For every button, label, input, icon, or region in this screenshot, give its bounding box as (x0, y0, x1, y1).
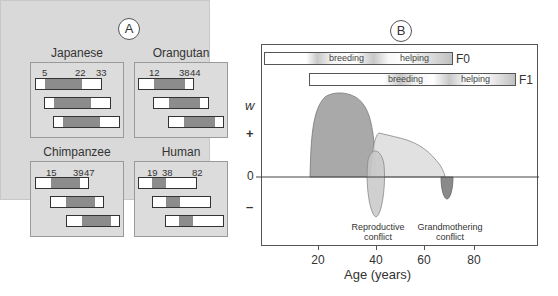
reproductive-conflict-lobe (367, 151, 384, 217)
annotation-grandmothering-conflict: Grandmothering conflict (415, 222, 485, 242)
annotation-reproductive-conflict: Reproductive conflict (346, 222, 410, 242)
x-tick-label-60: 60 (409, 253, 439, 267)
f0-fitness-curve (310, 93, 376, 177)
y-label-w: w (245, 98, 254, 113)
x-tick-label-20: 20 (303, 253, 333, 267)
x-tick-label-40: 40 (361, 253, 391, 267)
y-label-plus: + (246, 126, 254, 141)
x-tick-20 (318, 245, 319, 250)
y-label-zero: 0 (247, 169, 254, 183)
fitness-curves (0, 0, 558, 296)
grandmothering-conflict-lobe (441, 177, 453, 199)
x-tick-60 (424, 245, 425, 250)
x-tick-80 (474, 245, 475, 250)
x-axis-label: Age (years) (344, 267, 411, 282)
y-label-minus: – (246, 199, 253, 214)
x-tick-40 (376, 245, 377, 250)
x-tick-label-80: 80 (459, 253, 489, 267)
